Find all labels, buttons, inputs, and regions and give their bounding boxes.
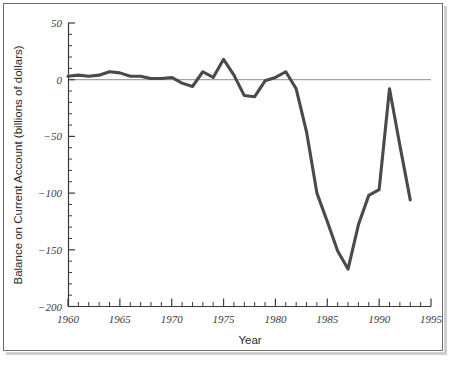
data-series-line <box>68 59 410 269</box>
x-axis-major-ticks <box>68 299 431 307</box>
x-tick-label: 1985 <box>316 313 339 325</box>
x-axis-minor-ticks <box>78 302 420 307</box>
x-tick-label: 1965 <box>109 313 132 325</box>
chart-figure: 500−50−100−150−200 196019651970197519801… <box>0 0 454 367</box>
y-tick-label: −200 <box>38 301 62 313</box>
x-tick-label: 1990 <box>368 313 391 325</box>
x-tick-label: 1970 <box>161 313 184 325</box>
x-axis-tick-labels: 19601965197019751980198519901995 <box>57 313 443 325</box>
x-tick-label: 1980 <box>264 313 287 325</box>
x-axis-title: Year <box>238 334 261 346</box>
x-tick-label: 1995 <box>420 313 443 325</box>
line-chart-plot: 500−50−100−150−200 196019651970197519801… <box>0 0 454 367</box>
x-tick-label: 1975 <box>213 313 236 325</box>
y-tick-label: −50 <box>44 130 63 142</box>
y-axis-title: Balance on Current Account (billions of … <box>12 45 24 284</box>
y-tick-label: 50 <box>51 17 63 29</box>
x-tick-label: 1960 <box>57 313 80 325</box>
y-tick-label: −150 <box>38 244 62 256</box>
y-axis-tick-labels: 500−50−100−150−200 <box>38 17 62 313</box>
y-tick-label: 0 <box>57 74 63 86</box>
y-tick-label: −100 <box>38 187 62 199</box>
